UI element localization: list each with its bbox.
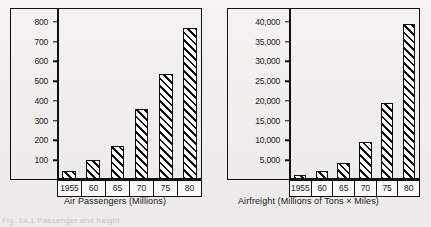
x-axis-category-label: 70	[130, 181, 154, 196]
bar-slot	[376, 8, 398, 180]
bar-slot	[178, 8, 202, 180]
y-axis-tick-label: 5,000	[260, 156, 280, 165]
x-axis-category-label: 75	[154, 181, 178, 196]
plot-area-left	[57, 8, 202, 180]
y-axis-gutter-left: 100200300400500600700800	[10, 8, 57, 180]
bar-slot	[398, 8, 420, 180]
y-axis-tick-label: 15,000	[255, 116, 280, 125]
x-axis-category-label: 1955	[58, 181, 82, 196]
x-axis-category-label: 1955	[290, 181, 312, 196]
chart-caption-right: Airfreight (Millions of Tons × Miles)	[238, 196, 379, 207]
x-axis-category-label: 80	[398, 181, 419, 196]
bar	[111, 146, 125, 180]
bar-slot	[289, 8, 311, 180]
y-axis-tick-label: 300	[34, 116, 48, 125]
y-axis-tick-mark	[53, 41, 58, 42]
y-axis-tick-mark	[285, 160, 290, 161]
bar	[135, 109, 149, 180]
y-axis-tick-mark	[53, 160, 58, 161]
bar-slot	[354, 8, 376, 180]
y-axis-tick-label: 20,000	[255, 97, 280, 106]
bar	[359, 142, 371, 180]
y-axis-gutter-right: 5,00010,00015,00020,00025,00030,00035,00…	[227, 8, 289, 180]
bar-slot	[57, 8, 81, 180]
y-axis-tick-label: 10,000	[255, 136, 280, 145]
bar	[403, 24, 415, 180]
y-axis-tick-mark	[285, 41, 290, 42]
bar-slot	[81, 8, 105, 180]
x-axis-category-label: 70	[355, 181, 377, 196]
y-axis-tick-mark	[53, 100, 58, 101]
chart-air-passengers: 100200300400500600700800 19556065707580	[10, 8, 202, 180]
bar-slot	[130, 8, 154, 180]
bar	[337, 163, 349, 180]
y-axis-tick-label: 600	[34, 57, 48, 66]
bar	[183, 28, 197, 180]
x-axis-category-label: 65	[106, 181, 130, 196]
y-axis-tick-label: 25,000	[255, 77, 280, 86]
y-axis-tick-mark	[285, 61, 290, 62]
y-axis-tick-label: 35,000	[255, 37, 280, 46]
bar	[159, 74, 173, 180]
x-axis-category-label: 75	[377, 181, 399, 196]
figure-number-caption: Fig. 14.1 Passenger and freight	[2, 216, 120, 225]
bar-slot	[333, 8, 355, 180]
chart-airfreight: 5,00010,00015,00020,00025,00030,00035,00…	[227, 8, 420, 180]
chart-caption-left: Air Passengers (Millions)	[64, 196, 166, 207]
bar-slot	[105, 8, 129, 180]
y-axis-tick-mark	[53, 80, 58, 81]
y-axis-tick-mark	[53, 61, 58, 62]
bar	[86, 160, 100, 180]
bar-group-left	[57, 8, 202, 180]
bar-group-right	[289, 8, 420, 180]
y-axis-tick-label: 400	[34, 97, 48, 106]
y-axis-tick-mark	[285, 21, 290, 22]
bar-slot	[311, 8, 333, 180]
bar-slot	[154, 8, 178, 180]
plot-area-right	[289, 8, 420, 180]
y-axis-tick-label: 500	[34, 77, 48, 86]
bar	[381, 103, 393, 180]
y-axis-tick-label: 30,000	[255, 57, 280, 66]
y-axis-tick-label: 100	[34, 156, 48, 165]
y-axis-tick-mark	[53, 120, 58, 121]
y-axis-tick-label: 40,000	[255, 18, 280, 27]
x-axis-category-label: 80	[178, 181, 201, 196]
x-axis-label-row-left: 19556065707580	[57, 180, 202, 197]
y-axis-tick-label: 200	[34, 136, 48, 145]
x-axis-label-row-right: 19556065707580	[289, 180, 420, 197]
x-axis-category-label: 60	[312, 181, 334, 196]
y-axis-tick-mark	[53, 140, 58, 141]
y-axis-tick-mark	[285, 80, 290, 81]
y-axis-tick-mark	[285, 120, 290, 121]
y-axis-tick-mark	[285, 100, 290, 101]
y-axis-tick-label: 700	[34, 37, 48, 46]
two-bar-charts-figure: 100200300400500600700800 19556065707580 …	[0, 0, 431, 227]
y-axis-tick-mark	[53, 21, 58, 22]
x-axis-category-label: 60	[82, 181, 106, 196]
x-axis-category-label: 65	[333, 181, 355, 196]
y-axis-tick-mark	[285, 140, 290, 141]
y-axis-tick-label: 800	[34, 18, 48, 27]
